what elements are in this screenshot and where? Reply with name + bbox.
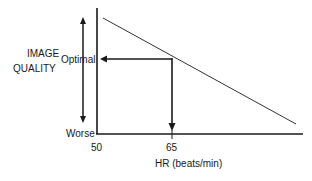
- trend-line: [103, 18, 296, 124]
- optimal-label: Optimal: [61, 54, 95, 65]
- diagram-canvas: [0, 0, 312, 181]
- x-tick-50: 50: [91, 142, 102, 153]
- x-tick-65: 65: [166, 142, 177, 153]
- y-axis-label-line2: QUALITY: [13, 63, 56, 74]
- x-axis-label: HR (beats/min): [155, 158, 222, 169]
- y-axis-label-line1: IMAGE: [27, 48, 59, 59]
- quality-double-arrow-icon: [80, 17, 86, 123]
- optimal-arrow-icon: [100, 56, 172, 63]
- worse-label: Worse: [66, 128, 95, 139]
- hr65-arrow-icon: [169, 58, 176, 139]
